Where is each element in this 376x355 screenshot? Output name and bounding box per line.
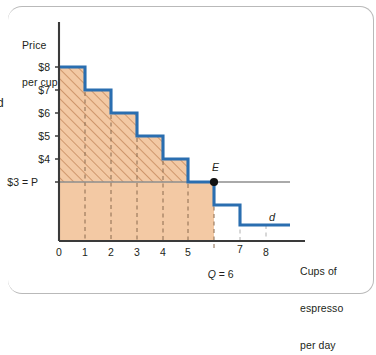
x-tick-label-8: 8 — [255, 246, 277, 258]
y-axis-title-line1: Price — [22, 39, 58, 51]
equilibrium-quantity-label: Q = 6 — [196, 256, 234, 292]
x-axis-title-line1: Cups of — [300, 265, 343, 277]
x-tick-label-3: 3 — [126, 246, 148, 258]
demand-curve-label: d — [269, 211, 275, 223]
x-tick-label-1: 1 — [74, 246, 96, 258]
y-tick-label-5: $5 — [4, 130, 50, 142]
y-tick-label-6: $6 — [4, 107, 50, 119]
x-axis-title-line3: per day — [300, 339, 343, 351]
y-tick-label-4: $4 — [4, 153, 50, 165]
x-axis-title: Cups of espresso per day — [300, 240, 343, 355]
x-tick-label-4: 4 — [152, 246, 174, 258]
equilibrium-point-marker — [210, 178, 218, 186]
equilibrium-point-label: E — [212, 161, 219, 173]
q-symbol: Q — [208, 268, 216, 280]
x-tick-label-2: 2 — [100, 246, 122, 258]
x-axis-title-line2: espresso — [300, 302, 343, 314]
x-tick-label-7: 7 — [229, 243, 251, 255]
q-equals-value: = 6 — [216, 268, 234, 280]
y-tick-label-8: $8 — [4, 61, 50, 73]
y-tick-label-price: $3 = P — [0, 176, 38, 188]
y-tick-label-7: $7 — [4, 84, 50, 96]
consumer-surplus-region — [59, 67, 188, 182]
x-tick-label-0: 0 — [48, 246, 70, 258]
clipped-margin-glyph: d — [0, 96, 4, 110]
